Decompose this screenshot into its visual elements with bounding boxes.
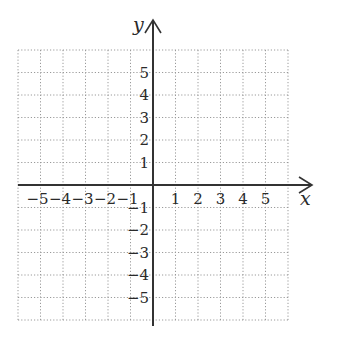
x-tick-label: 1 xyxy=(171,190,181,208)
y-tick-label: 5 xyxy=(139,64,149,82)
y-tick-label: 2 xyxy=(139,131,149,149)
y-tick-label: 3 xyxy=(139,109,149,127)
x-tick-label: 5 xyxy=(261,190,271,208)
y-axis-label: y xyxy=(132,13,144,35)
x-tick-label: −2 xyxy=(94,190,116,208)
y-tick-label: −3 xyxy=(127,244,149,262)
x-tick-label: −5 xyxy=(26,190,48,208)
x-axis-label: x xyxy=(300,187,311,209)
coordinate-plane: x y −5−4−3−2−112345 54321−1−2−3−4−5 xyxy=(0,0,337,340)
x-tick-label: 2 xyxy=(193,190,203,208)
y-tick-label: −1 xyxy=(127,199,149,217)
y-tick-label: −2 xyxy=(127,221,149,239)
x-tick-label: −4 xyxy=(49,190,71,208)
x-tick-label: −3 xyxy=(71,190,93,208)
x-tick-label: 3 xyxy=(216,190,226,208)
x-tick-label: 4 xyxy=(238,190,248,208)
y-tick-label: −4 xyxy=(127,266,149,284)
y-tick-label: 4 xyxy=(139,86,149,104)
y-tick-label: 1 xyxy=(139,154,149,172)
axes xyxy=(18,20,312,326)
y-tick-label: −5 xyxy=(127,289,149,307)
